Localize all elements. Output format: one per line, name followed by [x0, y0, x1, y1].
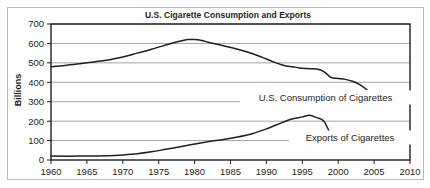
x-tick-label: 1970	[112, 166, 133, 177]
y-tick-label: 400	[28, 77, 44, 88]
y-tick-label: 100	[28, 135, 44, 146]
x-tick-label: 1985	[220, 166, 241, 177]
y-tick-label: 300	[28, 96, 44, 107]
x-tick-label: 2005	[364, 166, 385, 177]
x-tick-label: 1995	[292, 166, 313, 177]
x-axis-ticks: 1960196519701975198019851990199520002005…	[40, 160, 420, 177]
x-tick-label: 1980	[184, 166, 205, 177]
x-tick-label: 2010	[399, 166, 420, 177]
y-tick-label: 200	[28, 116, 44, 127]
y-tick-label: 500	[28, 57, 44, 68]
series-label-1: Exports of Cigarettes	[306, 132, 395, 143]
x-tick-label: 1990	[256, 166, 277, 177]
series-labels-group: U.S. Consumption of CigarettesExports of…	[240, 91, 411, 145]
x-tick-label: 1960	[40, 166, 61, 177]
series-label-0: U.S. Consumption of Cigarettes	[259, 92, 393, 103]
plot-area: 0100200300400500600700 19601965197019751…	[0, 0, 430, 188]
x-tick-label: 2000	[328, 166, 349, 177]
chart-figure: U.S. Cigarette Consumption and Exports B…	[0, 0, 430, 188]
x-tick-label: 1965	[76, 166, 97, 177]
y-tick-label: 700	[28, 18, 44, 29]
y-axis-ticks: 0100200300400500600700	[28, 18, 51, 165]
y-tick-label: 600	[28, 38, 44, 49]
x-tick-label: 1975	[148, 166, 169, 177]
y-tick-label: 0	[39, 154, 44, 165]
